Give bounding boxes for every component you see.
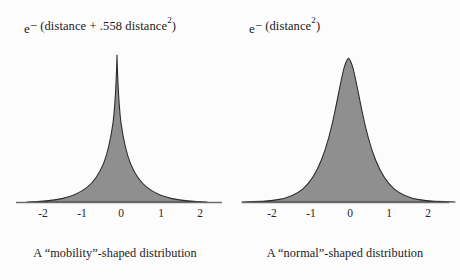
- tick-label: -1: [306, 207, 316, 219]
- formula-exponent-power: 2: [311, 15, 316, 25]
- formula-exponent-prefix: − (distance + .558 distance: [30, 19, 167, 33]
- panel-normal: e− (distance2) -2 -1 0 1 2 A “normal”-sh…: [230, 0, 460, 280]
- formula-normal: e− (distance2): [249, 17, 320, 32]
- tick-label: 2: [425, 207, 431, 219]
- curve-normal-fill: [242, 58, 455, 202]
- x-axis-ticks-mobility: -2 -1 0 1 2: [0, 207, 230, 225]
- formula-exponent-suffix: ): [172, 19, 176, 33]
- caption-mobility: A “mobility”-shaped distribution: [0, 246, 230, 261]
- tick-label: -2: [38, 207, 48, 219]
- tick-label: 2: [197, 207, 203, 219]
- tick-label: 0: [118, 207, 124, 219]
- formula-mobility: e− (distance + .558 distance2): [24, 17, 176, 32]
- tick-label: 1: [158, 207, 164, 219]
- tick-label: 0: [347, 207, 353, 219]
- panel-mobility: e− (distance + .558 distance2) -2 -1 0 1…: [0, 0, 230, 280]
- formula-exponent-suffix: ): [316, 19, 320, 33]
- caption-normal: A “normal”-shaped distribution: [230, 246, 460, 261]
- curve-mobility-svg: [0, 33, 230, 208]
- curve-normal-svg: [230, 33, 460, 208]
- x-axis-ticks-normal: -2 -1 0 1 2: [230, 207, 460, 225]
- curve-mobility-fill: [27, 55, 207, 202]
- plot-area-mobility: [0, 33, 230, 208]
- tick-label: -1: [77, 207, 87, 219]
- formula-exponent-prefix: − (distance: [255, 19, 311, 33]
- tick-label: -2: [267, 207, 277, 219]
- formula-exponent-power: 2: [167, 15, 172, 25]
- plot-area-normal: [230, 33, 460, 208]
- figure-two-distributions: e− (distance + .558 distance2) -2 -1 0 1…: [0, 0, 460, 280]
- tick-label: 1: [386, 207, 392, 219]
